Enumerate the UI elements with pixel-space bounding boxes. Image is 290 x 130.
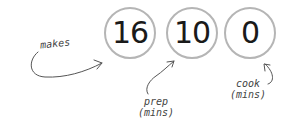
prep-arrow-icon xyxy=(147,61,174,94)
cook-label-line2: (mins) xyxy=(228,89,268,100)
cook-label: cook (mins) xyxy=(228,78,268,100)
cook-label-line1: cook xyxy=(228,78,268,89)
prep-label: prep (mins) xyxy=(138,96,174,118)
makes-arrow-icon xyxy=(31,52,102,77)
prep-label-line2: (mins) xyxy=(138,107,174,118)
prep-label-line1: prep xyxy=(138,96,174,107)
